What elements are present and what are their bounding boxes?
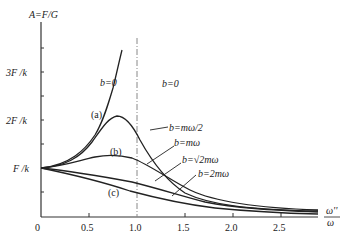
x-tick-1-5: 1.5 — [177, 222, 190, 233]
x-axis-label-numerator: ω'' — [326, 205, 338, 216]
annotation-b-mw-half: b=mω/2 — [169, 122, 203, 133]
region-a: (a) — [91, 109, 102, 121]
annotation-b0-right: b=0 — [162, 78, 179, 89]
region-b: (b) — [110, 146, 122, 158]
x-tick-2-0: 2.0 — [225, 222, 238, 233]
y-tick-fk: F /k — [12, 163, 29, 174]
x-tick-0-5: 0.5 — [81, 222, 94, 233]
x-tick-1-0: 1.0 — [129, 222, 142, 233]
annotation-b-sqrt2mw: b=√2mω — [182, 154, 219, 165]
x-tick-0: 0 — [35, 222, 40, 233]
x-tick-2-5: 2.5 — [273, 222, 286, 233]
y-tick-2fk: 2F /k — [6, 115, 27, 126]
x-axis-label-denominator: ω — [327, 217, 334, 228]
y-tick-3fk: 3F /k — [5, 67, 27, 78]
y-axis-label: A=F/G — [28, 9, 58, 20]
annotation-b0-left: b=0 — [100, 77, 117, 88]
annotation-b-2mw: b=2mω — [198, 168, 229, 179]
annotation-b-mw: b=mω — [174, 137, 200, 148]
region-c: (c) — [108, 187, 119, 199]
frequency-response-diagram: A=F/G 3F /k 2F /k F /k 0 0.5 1.0 1.5 2.0… — [0, 0, 352, 245]
